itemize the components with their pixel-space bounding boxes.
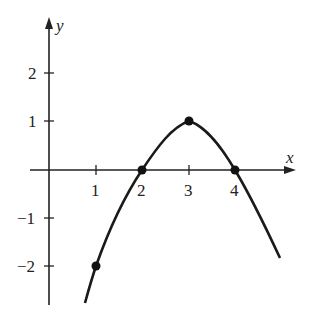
y-tick-label-neg1: −1 xyxy=(17,209,35,228)
x-axis-label: x xyxy=(285,148,294,167)
chart-canvas: y x 1 2 3 4 2 1 −1 −2 xyxy=(0,0,312,323)
point-1-neg2 xyxy=(92,262,101,271)
point-4-0 xyxy=(231,166,240,175)
graph: y x 1 2 3 4 2 1 −1 −2 xyxy=(0,0,312,323)
x-axis-arrow-icon xyxy=(284,166,296,174)
point-2-0 xyxy=(138,166,147,175)
x-tick-label-3: 3 xyxy=(184,181,193,200)
y-tick-label-neg2: −2 xyxy=(17,257,35,276)
curve xyxy=(85,121,280,303)
y-tick-label-2: 2 xyxy=(28,64,37,83)
x-tick-label-2: 2 xyxy=(137,181,146,200)
y-axis-label: y xyxy=(54,16,64,35)
y-tick-label-1: 1 xyxy=(28,112,37,131)
x-tick-label-1: 1 xyxy=(91,181,100,200)
x-tick-label-4: 4 xyxy=(230,181,239,200)
point-3-1 xyxy=(185,117,194,126)
y-axis-arrow-icon xyxy=(45,17,53,29)
